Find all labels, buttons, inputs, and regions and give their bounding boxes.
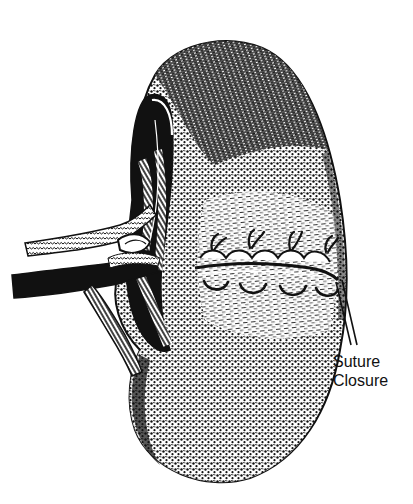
figure-canvas: Suture Closure (0, 0, 413, 504)
suture-closure-label: Suture Closure (333, 352, 388, 390)
label-line-2: Closure (333, 371, 388, 390)
kidney-illustration (0, 0, 413, 504)
label-line-1: Suture (333, 352, 388, 371)
